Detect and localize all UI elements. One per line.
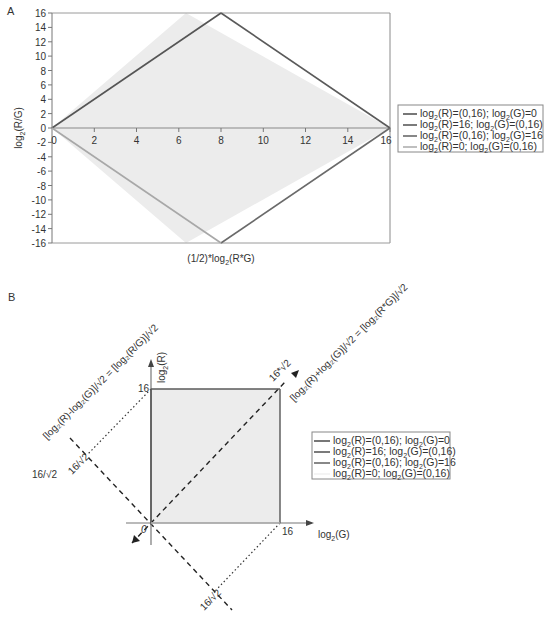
svg-text:8: 8 [218,135,224,146]
chart-b-x-tick-16: 16 [282,526,294,537]
chart-b-tick-16sqrt2: 16*√2 [267,357,294,384]
chart-b-sum-axis-label: [log₂(R)+log₂(G)]/√2 = [log₂(R*G)]/√2 [288,281,410,403]
chart-a: 16 14 12 10 8 6 4 2 0 -2 -4 -6 -8 -10 -1… [13,8,543,266]
panel-b-label: B [8,291,15,303]
panel-a-label: A [7,5,15,17]
svg-text:-12: -12 [32,209,47,220]
svg-text:-6: -6 [37,166,46,177]
svg-text:2: 2 [92,135,98,146]
svg-text:-16: -16 [32,238,47,249]
legend-b-item-4: log2(R)=0; log2(G)=(0,16) [333,467,450,481]
svg-text:10: 10 [35,51,47,62]
svg-text:-2: -2 [37,137,46,148]
svg-text:2: 2 [40,109,46,120]
svg-text:4: 4 [134,135,140,146]
x-axis-arrow-icon [306,520,314,526]
svg-text:8: 8 [40,66,46,77]
chart-b-x-label: log2(G) [318,529,350,542]
svg-text:-4: -4 [37,152,46,163]
svg-text:-10: -10 [32,195,47,206]
svg-text:4: 4 [40,94,46,105]
chart-b-diff-axis-label: [log₂(R)-log₂(G)]/√2 = [log₂(R/G)]/√2 [41,322,161,442]
chart-a-y-label: log2(R/G) [13,107,26,149]
svg-text:-8: -8 [37,181,46,192]
sum-axis-arrow-upper-icon [291,370,299,378]
chart-a-y-ticks [48,13,52,243]
svg-text:-14: -14 [32,224,47,235]
chart-b-y-label: log2(R) [156,352,169,383]
chart-b-tick-16-over-sqrt2-upper: 16/√2 [66,451,92,477]
chart-b: 16 16 0 16*√2 16/√2 16/√2 16/√2 log2(G) … [32,281,456,612]
svg-text:16: 16 [380,135,392,146]
svg-text:6: 6 [40,80,46,91]
chart-a-x-label: (1/2)*log2(R*G) [187,253,254,266]
svg-text:12: 12 [300,135,312,146]
chart-b-tick-16-over-sqrt2-lower: 16/√2 [198,587,224,613]
svg-text:12: 12 [35,37,47,48]
chart-b-origin-label: 0 [141,524,147,535]
legend-a-item-4: log2(R)=0; log2(G)=(0,16) [420,140,537,154]
svg-text:10: 10 [258,135,270,146]
svg-text:14: 14 [342,135,354,146]
svg-text:0: 0 [40,123,46,134]
chart-b-label-16-over-sqrt2: 16/√2 [32,469,57,480]
chart-b-legend: log2(R)=(0,16); log2(G)=0 log2(R)=16; lo… [312,432,456,481]
y-axis-arrow-icon [148,359,154,367]
chart-a-y-tick-labels: 16 14 12 10 8 6 4 2 0 -2 -4 -6 -8 -10 -1… [32,8,47,249]
chart-b-dotted-line-lower [218,523,280,588]
svg-text:0: 0 [51,135,57,146]
chart-b-y-tick-16: 16 [138,383,150,394]
chart-a-legend: log2(R)=(0,16); log2(G)=0 log2(R)=16; lo… [398,105,543,154]
chart-b-dotted-line-upper [87,389,151,455]
svg-text:6: 6 [176,135,182,146]
figure: A 16 14 12 10 8 6 4 2 0 [0,0,549,623]
svg-text:14: 14 [35,22,47,33]
svg-text:16: 16 [35,8,47,19]
